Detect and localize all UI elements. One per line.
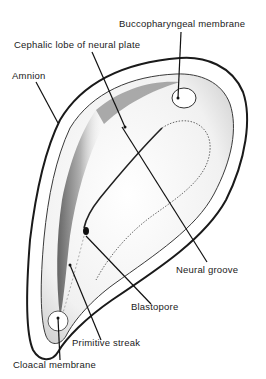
embryo-illustration [0,0,266,379]
embryo-diagram: Buccopharyngeal membrane Cephalic lobe o… [0,0,266,379]
label-buccopharyngeal-membrane: Buccopharyngeal membrane [119,19,245,29]
label-cephalic-lobe: Cephalic lobe of neural plate [14,40,140,50]
blastopore [83,227,89,235]
buccopharyngeal-membrane [172,88,196,108]
label-cloacal-membrane: Cloacal membrane [13,360,96,370]
label-primitive-streak: Primitive streak [72,338,140,348]
label-neural-groove: Neural groove [176,265,238,275]
label-blastopore: Blastopore [131,302,178,312]
label-amnion: Amnion [12,71,45,81]
